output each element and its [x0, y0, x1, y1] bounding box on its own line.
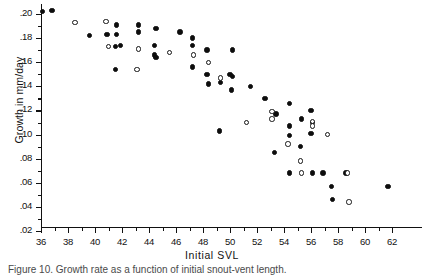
data-point-filled [308, 108, 313, 113]
y-tick-minor [38, 219, 41, 220]
x-tick-minor [136, 228, 137, 231]
x-tick-major [149, 228, 150, 233]
data-point-filled [218, 80, 223, 85]
data-point-open [298, 158, 303, 163]
x-tick-label: 62 [380, 236, 404, 247]
y-tick-major [36, 38, 41, 39]
y-tick-major [36, 14, 41, 15]
x-tick-minor [109, 228, 110, 231]
data-point-filled [190, 43, 195, 48]
x-tick-minor [163, 228, 164, 231]
data-point-open [285, 141, 290, 146]
y-tick-minor [38, 171, 41, 172]
x-tick-label: 40 [83, 236, 107, 247]
data-point-filled [87, 33, 92, 38]
y-axis-line [41, 4, 42, 228]
data-point-open [269, 116, 274, 121]
x-axis-title: Initial SVL [0, 249, 424, 261]
x-tick-label: 46 [164, 236, 188, 247]
data-point-filled [190, 35, 195, 40]
data-point-filled [330, 197, 335, 202]
y-tick-label: .04 [8, 200, 32, 211]
y-tick-minor [38, 195, 41, 196]
data-point-filled [287, 123, 292, 128]
x-tick-label: 50 [218, 236, 242, 247]
x-tick-label: 58 [326, 236, 350, 247]
x-tick-major [122, 228, 123, 233]
data-point-open [346, 199, 351, 204]
y-tick-minor [38, 74, 41, 75]
x-tick-minor [379, 228, 380, 231]
data-point-filled [310, 170, 315, 175]
x-tick-major [257, 228, 258, 233]
data-point-open [299, 170, 304, 175]
data-point-open [345, 170, 350, 175]
y-tick-label: .02 [8, 224, 32, 235]
x-tick-label: 52 [245, 236, 269, 247]
y-tick-minor [38, 50, 41, 51]
data-point-filled [40, 9, 45, 14]
data-point-open [191, 52, 196, 57]
data-point-filled [229, 87, 234, 92]
data-point-open [106, 44, 111, 49]
y-tick-major [36, 159, 41, 160]
data-point-filled [104, 32, 109, 37]
y-tick-major [36, 135, 41, 136]
y-tick-minor [38, 147, 41, 148]
y-tick-major [36, 207, 41, 208]
x-tick-major [365, 228, 366, 233]
x-tick-label: 54 [272, 236, 296, 247]
data-point-filled [177, 29, 182, 34]
x-tick-major [95, 228, 96, 233]
data-point-open [103, 19, 108, 24]
x-tick-minor [298, 228, 299, 231]
data-point-filled [114, 32, 119, 37]
data-point-open [72, 20, 77, 25]
x-tick-label: 56 [299, 236, 323, 247]
y-tick-major [36, 86, 41, 87]
data-point-filled [308, 131, 313, 136]
x-tick-major [311, 228, 312, 233]
y-tick-major [36, 110, 41, 111]
x-tick-label: 44 [137, 236, 161, 247]
data-point-filled [190, 64, 195, 69]
data-point-filled [272, 150, 277, 155]
x-tick-label: 38 [56, 236, 80, 247]
x-tick-minor [244, 228, 245, 231]
x-tick-label: 48 [191, 236, 215, 247]
y-tick-minor [38, 123, 41, 124]
x-tick-minor [271, 228, 272, 231]
data-point-open [134, 67, 139, 72]
data-point-filled [118, 43, 123, 48]
data-point-filled [204, 72, 209, 77]
data-point-filled [298, 144, 303, 149]
data-point-filled [287, 101, 292, 106]
data-point-filled [287, 170, 292, 175]
data-point-open [269, 109, 274, 114]
y-axis-title: Growth in mm/day [13, 25, 25, 175]
data-point-filled [49, 8, 54, 13]
data-point-filled [136, 22, 141, 27]
x-tick-major [203, 228, 204, 233]
x-tick-major [338, 228, 339, 233]
y-tick-major [36, 62, 41, 63]
data-point-filled [329, 184, 334, 189]
data-point-filled [152, 43, 157, 48]
data-point-open [136, 46, 141, 51]
data-point-filled [262, 96, 267, 101]
x-tick-major [392, 228, 393, 233]
data-point-open [218, 75, 223, 80]
data-point-open [206, 60, 211, 65]
data-point-filled [153, 55, 158, 60]
x-tick-major [284, 228, 285, 233]
x-tick-label: 60 [353, 236, 377, 247]
data-point-filled [230, 74, 235, 79]
data-point-open [325, 132, 330, 137]
y-tick-label: .06 [8, 176, 32, 187]
data-point-filled [230, 47, 235, 52]
data-point-filled [114, 22, 119, 27]
x-tick-minor [55, 228, 56, 231]
x-tick-minor [217, 228, 218, 231]
